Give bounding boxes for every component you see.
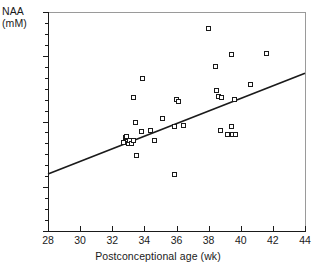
x-tick-label: 28 — [35, 234, 61, 246]
data-point — [219, 95, 224, 100]
x-tick-label: 32 — [99, 234, 125, 246]
data-point — [264, 51, 269, 56]
data-point — [140, 76, 145, 81]
y-axis-label-line2: (mM) — [2, 17, 27, 29]
x-tick-label: 38 — [196, 234, 222, 246]
x-tick-label: 42 — [260, 234, 286, 246]
data-point — [176, 99, 181, 104]
x-tick-label: 30 — [67, 234, 93, 246]
data-point — [229, 124, 234, 129]
data-point — [172, 172, 177, 177]
data-point — [218, 128, 223, 133]
data-point — [233, 132, 238, 137]
data-point — [139, 129, 144, 134]
data-point — [213, 64, 218, 69]
x-tick-label: 44 — [292, 234, 316, 246]
data-point — [152, 138, 157, 143]
data-point — [248, 82, 253, 87]
data-point — [232, 97, 237, 102]
data-point — [148, 128, 153, 133]
x-tick-label: 34 — [131, 234, 157, 246]
data-point — [229, 52, 234, 57]
y-axis-label-line1: NAA — [2, 5, 24, 17]
data-point — [160, 116, 165, 121]
y-axis-label: NAA(mM) — [2, 6, 27, 29]
scatter-plot-figure: NAA(mM) 025810 283032343638404244 Postco… — [0, 0, 316, 270]
data-point — [133, 120, 138, 125]
data-point — [214, 88, 219, 93]
plot-area: 025810 283032343638404244 — [48, 12, 305, 232]
data-point — [181, 123, 186, 128]
regression-line — [48, 12, 306, 232]
data-point — [131, 138, 136, 143]
data-point — [134, 153, 139, 158]
x-tick-label: 40 — [228, 234, 254, 246]
data-point — [206, 26, 211, 31]
x-tick-label: 36 — [164, 234, 190, 246]
data-point — [131, 95, 136, 100]
data-point — [172, 124, 177, 129]
x-axis-label: Postconceptional age (wk) — [0, 250, 316, 262]
